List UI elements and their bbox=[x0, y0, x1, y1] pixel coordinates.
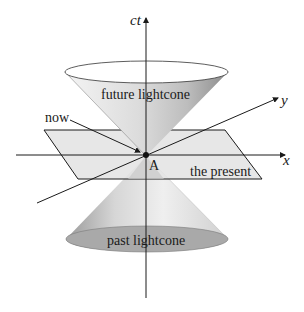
lightcone-diagram: ct x y future lightcone past lightcone n… bbox=[0, 0, 304, 312]
event-label: A bbox=[149, 158, 160, 173]
future-cone-label: future lightcone bbox=[101, 87, 190, 102]
present-plane-label: the present bbox=[190, 164, 251, 179]
y-axis-label: y bbox=[279, 92, 288, 108]
ct-axis-label: ct bbox=[130, 12, 142, 28]
past-cone-label: past lightcone bbox=[107, 233, 185, 248]
now-label: now bbox=[45, 110, 70, 125]
x-axis-label: x bbox=[282, 152, 290, 168]
diagram-canvas: ct x y future lightcone past lightcone n… bbox=[0, 0, 304, 312]
